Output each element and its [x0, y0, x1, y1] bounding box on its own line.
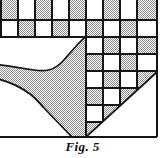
strip-row-2	[18, 20, 137, 37]
strip-row-1	[1, 0, 157, 20]
curved-band-shape	[0, 38, 86, 137]
checkerboard-strip	[0, 0, 157, 37]
figure-caption: Fig. 5	[0, 138, 165, 156]
right-checkerboard-triangle	[86, 37, 157, 137]
figure-drawing	[0, 0, 165, 158]
figure-5: Fig. 5	[0, 0, 165, 158]
left-curved-region	[0, 38, 86, 137]
